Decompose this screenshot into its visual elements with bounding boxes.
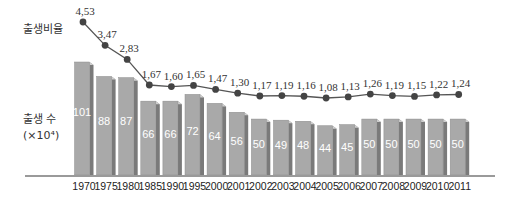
bar-value-label: 44 <box>319 142 331 154</box>
bar-value-label: 48 <box>297 139 309 151</box>
line-marker <box>433 92 440 99</box>
line-marker <box>80 19 87 26</box>
bar-value-label: 45 <box>341 141 353 153</box>
line-marker <box>124 56 131 63</box>
bar-value-label: 50 <box>452 138 464 150</box>
x-tick-label: 1980 <box>117 180 141 192</box>
bar-2000: 64 <box>207 103 226 175</box>
line-marker <box>146 82 153 89</box>
bar-1980: 87 <box>119 78 138 175</box>
x-tick-label: 2009 <box>404 180 428 192</box>
bar-2004: 48 <box>296 121 315 175</box>
bar-2001: 56 <box>229 112 248 175</box>
line-marker <box>389 92 396 99</box>
x-tick-label: 2001 <box>227 180 251 192</box>
bar-value-label: 49 <box>275 139 287 151</box>
bar-2007: 50 <box>362 119 381 175</box>
line-value-label: 1,67 <box>142 68 162 80</box>
line-value-label: 1,47 <box>208 72 228 84</box>
x-tick-label: 1990 <box>161 180 185 192</box>
birth-chart: 출생비율 출생 수 (×10⁴) 10188876666726456504948… <box>0 0 512 197</box>
bar-value-label: 50 <box>385 138 397 150</box>
bar-value-label: 50 <box>407 138 419 150</box>
x-tick-label: 2008 <box>382 180 406 192</box>
line-value-label: 1,15 <box>407 79 427 91</box>
line-value-label: 1,16 <box>296 79 316 91</box>
x-tick-label: 2011 <box>448 180 471 192</box>
bar-2003: 49 <box>273 120 292 175</box>
line-marker <box>301 93 308 100</box>
line-value-label: 1,08 <box>318 81 338 93</box>
bar-1970: 101 <box>73 62 94 175</box>
line-value-label: 1,24 <box>451 77 471 89</box>
line-value-label: 1,26 <box>363 77 383 89</box>
bar-2010: 50 <box>428 119 447 175</box>
bar-2002: 50 <box>251 119 270 175</box>
bar-value-label: 50 <box>363 138 375 150</box>
x-tick-label: 2007 <box>360 180 384 192</box>
line-marker <box>323 95 330 102</box>
line-marker <box>190 82 197 89</box>
line-marker <box>455 91 462 98</box>
bar-1995: 72 <box>185 94 204 175</box>
bar-value-label: 66 <box>142 128 154 140</box>
line-value-label: 1,19 <box>385 79 405 91</box>
line-value-label: 1,65 <box>186 68 206 80</box>
line-marker <box>367 91 374 98</box>
bar-value-label: 56 <box>231 135 243 147</box>
x-axis-ticks: 1970197519801985199019952000200120022003… <box>72 180 471 192</box>
bar-value-label: 72 <box>186 125 198 137</box>
line-value-label: 1,19 <box>274 79 294 91</box>
bar-2011: 50 <box>450 119 469 175</box>
line-value-label: 1,13 <box>341 80 361 92</box>
bar-value-label: 66 <box>164 128 176 140</box>
line-marker <box>102 42 109 49</box>
bar-value-label: 50 <box>429 138 441 150</box>
x-tick-label: 2003 <box>271 180 295 192</box>
line-value-label: 1,30 <box>230 76 250 88</box>
line-marker <box>168 83 175 90</box>
line-marker <box>411 93 418 100</box>
line-value-label: 1,60 <box>164 70 184 82</box>
x-tick-label: 2005 <box>315 180 339 192</box>
bar-axis-unit: (×10⁴) <box>23 129 59 142</box>
bar-value-label: 88 <box>98 115 110 127</box>
x-tick-label: 1970 <box>72 180 96 192</box>
bar-2008: 50 <box>384 119 403 175</box>
x-tick-label: 2002 <box>249 180 273 192</box>
bar-value-label: 50 <box>253 138 265 150</box>
line-marker <box>234 90 241 97</box>
line-value-label: 1,17 <box>252 79 272 91</box>
line-value-label: 1,22 <box>429 78 448 90</box>
line-marker <box>279 92 286 99</box>
x-tick-label: 1985 <box>139 180 163 192</box>
x-tick-label: 1975 <box>94 180 118 192</box>
line-axis-label: 출생비율 <box>23 23 63 36</box>
line-value-label: 4,53 <box>75 5 95 17</box>
bar-value-label: 101 <box>73 106 91 118</box>
line-marker <box>212 86 219 93</box>
bar-1990: 66 <box>163 101 182 175</box>
bar-1985: 66 <box>141 101 160 175</box>
bar-2006: 45 <box>340 125 359 175</box>
bar-axis-label: 출생 수 <box>23 113 57 126</box>
line-marker <box>345 93 352 100</box>
line-value-label: 2,83 <box>120 42 140 54</box>
bar-2005: 44 <box>318 126 337 175</box>
x-tick-label: 1995 <box>183 180 207 192</box>
bar-1975: 88 <box>97 77 116 175</box>
bar-2009: 50 <box>406 119 425 175</box>
x-tick-label: 2004 <box>293 180 317 192</box>
bar-value-label: 64 <box>208 130 220 142</box>
bar-value-label: 87 <box>120 115 132 127</box>
line-value-label: 3,47 <box>97 28 117 40</box>
x-tick-label: 2010 <box>426 180 450 192</box>
line-marker <box>256 93 263 100</box>
x-tick-label: 2006 <box>338 180 362 192</box>
x-tick-label: 2000 <box>205 180 229 192</box>
